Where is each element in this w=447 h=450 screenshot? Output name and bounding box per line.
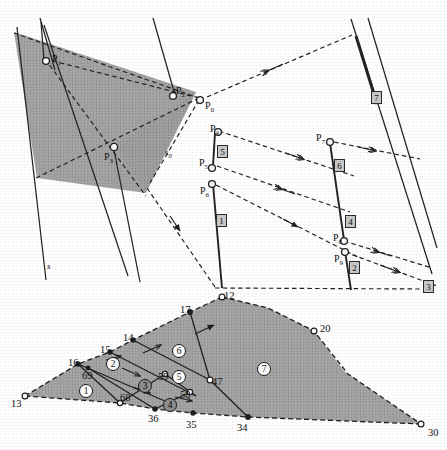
face-label-5: 5 [172, 370, 186, 384]
segment-box-4: 4 [345, 215, 356, 228]
vertex-label-69: 69 [82, 371, 93, 382]
point-label-P1: P1 [52, 54, 61, 67]
vertex-label-35: 35 [186, 420, 197, 431]
point-label-subscript: 3 [110, 157, 114, 165]
segment-box-2: 2 [349, 261, 360, 274]
line-label-s0: s0 [165, 148, 172, 159]
point-label-P2: P2 [176, 86, 185, 99]
segment-box-5: 5 [217, 145, 228, 158]
vertex-label-59: 59 [158, 372, 169, 383]
vertex-label-20: 20 [320, 324, 331, 335]
line-label-s: s [47, 262, 51, 271]
vertex-label-58: 58 [180, 390, 191, 401]
point-label-subscript: 7 [322, 138, 326, 146]
point-label-P7: P7 [316, 133, 325, 146]
vertex-label-30: 30 [428, 428, 439, 439]
segment-box-1: 1 [216, 214, 227, 227]
point-label-P0: P0 [205, 101, 214, 114]
face-label-3: 3 [138, 379, 152, 393]
vertex-label-14: 14 [123, 333, 134, 344]
point-label-P8: P8 [333, 233, 342, 246]
point-label-P9: P9 [334, 254, 343, 267]
point-label-subscript: 6 [206, 191, 210, 199]
figure-root: P0P1P2P3P4P5P6P7P8P9ss012345671316151417… [0, 0, 447, 450]
vertex-label-15: 15 [100, 345, 111, 356]
vertex-label-34: 34 [237, 423, 248, 434]
face-label-4: 4 [163, 398, 177, 412]
face-label-1: 1 [79, 384, 93, 398]
point-label-subscript: 2 [182, 91, 186, 99]
point-label-subscript: 5 [205, 163, 209, 171]
face-label-2: 2 [106, 357, 120, 371]
point-label-subscript: 0 [211, 106, 215, 114]
point-label-P6: P6 [200, 186, 209, 199]
vertex-label-12: 12 [224, 291, 235, 302]
point-label-subscript: 1 [58, 59, 62, 67]
point-label-subscript: 4 [216, 129, 220, 137]
point-label-P3: P3 [104, 152, 113, 165]
segment-box-6: 6 [334, 159, 345, 172]
face-label-6: 6 [172, 344, 186, 358]
vertex-label-68: 68 [120, 393, 131, 404]
vertex-label-13: 13 [11, 399, 22, 410]
face-label-7: 7 [257, 362, 271, 376]
point-label-subscript: 9 [340, 259, 344, 267]
vertex-label-17: 17 [180, 305, 191, 316]
line-label-subscript: 0 [169, 152, 172, 159]
vertex-label-47: 47 [212, 377, 223, 388]
point-label-P5: P5 [199, 158, 208, 171]
point-label-subscript: 8 [339, 238, 343, 246]
segment-box-3: 3 [423, 280, 434, 293]
vertex-label-16: 16 [68, 358, 79, 369]
segment-box-7: 7 [371, 91, 382, 104]
vertex-label-36: 36 [148, 414, 159, 425]
lower-shaded-polygon [25, 297, 421, 424]
point-label-P4: P4 [210, 124, 219, 137]
